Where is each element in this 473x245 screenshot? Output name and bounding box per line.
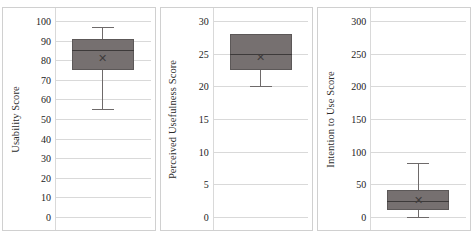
y-axis-tick-label: 40 xyxy=(41,133,51,144)
box-whisker-glyph: ✕ xyxy=(72,8,134,230)
y-axis-tick-label: 150 xyxy=(351,114,366,125)
y-axis-tick-label: 50 xyxy=(41,114,51,125)
y-axis-title-label: Intention to Use Score xyxy=(325,71,336,167)
y-axis-ticks-perceived-usefulness: 051015202530 xyxy=(181,8,211,230)
y-axis-title-perceived-usefulness: Perceived Usefulness Score xyxy=(163,8,183,230)
lower-whisker-line xyxy=(102,70,103,109)
y-axis-tick-label: 20 xyxy=(199,81,209,92)
y-axis-title-usability: Usability Score xyxy=(5,8,25,230)
boxplot-figure: Usability Score 0102030405060708090100 ✕… xyxy=(0,0,473,245)
y-axis-ticks-usability: 0102030405060708090100 xyxy=(23,8,53,230)
y-axis-tick-label: 70 xyxy=(41,74,51,85)
y-axis-tick-label: 80 xyxy=(41,55,51,66)
y-axis-tick-label: 15 xyxy=(199,114,209,125)
chart-panel-intention-to-use: Intention to Use Score 05010015020025030… xyxy=(317,7,471,231)
y-axis-tick-label: 30 xyxy=(199,16,209,27)
lower-whisker-cap xyxy=(407,217,429,218)
mean-marker-icon: ✕ xyxy=(256,51,265,62)
y-axis-tick-label: 30 xyxy=(41,153,51,164)
y-axis-title-label: Usability Score xyxy=(10,86,21,153)
y-axis-tick-label: 100 xyxy=(36,16,51,27)
y-axis-tick-label: 0 xyxy=(361,212,366,223)
lower-whisker-line xyxy=(260,70,261,86)
upper-whisker-cap xyxy=(92,27,114,28)
y-axis-tick-label: 50 xyxy=(356,179,366,190)
box-whisker-glyph: ✕ xyxy=(387,8,449,230)
y-axis-tick-label: 60 xyxy=(41,94,51,105)
y-axis-tick-label: 250 xyxy=(351,48,366,59)
lower-whisker-cap xyxy=(250,86,272,87)
y-axis-title-intention-to-use: Intention to Use Score xyxy=(320,8,340,230)
y-axis-tick-label: 0 xyxy=(46,212,51,223)
y-axis-tick-label: 5 xyxy=(204,179,209,190)
chart-panel-usability: Usability Score 0102030405060708090100 ✕ xyxy=(2,7,156,231)
plot-area-intention-to-use: ✕ xyxy=(370,8,466,230)
upper-whisker-cap xyxy=(407,163,429,164)
y-axis-tick-label: 25 xyxy=(199,48,209,59)
y-axis-ticks-intention-to-use: 050100150200250300 xyxy=(338,8,368,230)
upper-whisker-line xyxy=(418,163,419,190)
y-axis-title-label: Perceived Usefulness Score xyxy=(167,59,178,178)
mean-marker-icon: ✕ xyxy=(414,195,423,206)
y-axis-tick-label: 90 xyxy=(41,35,51,46)
plot-area-usability: ✕ xyxy=(55,8,151,230)
y-axis-tick-label: 300 xyxy=(351,16,366,27)
box-whisker-glyph: ✕ xyxy=(230,8,292,230)
upper-whisker-line xyxy=(102,27,103,39)
y-axis-tick-label: 20 xyxy=(41,172,51,183)
y-axis-tick-label: 200 xyxy=(351,81,366,92)
y-axis-tick-label: 10 xyxy=(41,192,51,203)
plot-area-perceived-usefulness: ✕ xyxy=(213,8,309,230)
chart-panel-perceived-usefulness: Perceived Usefulness Score 051015202530 … xyxy=(160,7,314,231)
lower-whisker-line xyxy=(418,210,419,217)
lower-whisker-cap xyxy=(92,109,114,110)
mean-marker-icon: ✕ xyxy=(98,53,107,64)
y-axis-tick-label: 10 xyxy=(199,146,209,157)
y-axis-tick-label: 100 xyxy=(351,146,366,157)
y-axis-tick-label: 0 xyxy=(204,212,209,223)
